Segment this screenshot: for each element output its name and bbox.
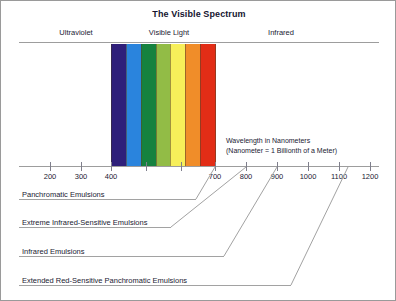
axis-tick-label-900: 900 xyxy=(262,172,292,181)
axis-tick-1000 xyxy=(308,162,309,171)
visible-spectrum-diagram: The Visible Spectrum Ultraviolet Visible… xyxy=(0,0,396,301)
spectrum-band-yellow xyxy=(170,44,185,166)
axis-tick-label-800: 800 xyxy=(231,172,261,181)
axis-tick-1200 xyxy=(370,162,371,171)
spectrum-band-yellow-green xyxy=(156,44,171,166)
axis-tick-label-1000: 1000 xyxy=(293,172,323,181)
axis-tick-label-300: 300 xyxy=(66,172,96,181)
spectrum-color-bands xyxy=(111,44,216,166)
wavelength-caption: Wavelength in Nanometers (Nanometer = 1 … xyxy=(226,136,337,155)
spectrum-band-red xyxy=(200,44,216,166)
axis-tick-label-1100: 1100 xyxy=(324,172,354,181)
region-divider-rule xyxy=(19,42,379,43)
axis-tick-label-700: 700 xyxy=(200,172,230,181)
axis-tick-400 xyxy=(111,162,112,171)
wavelength-axis-line xyxy=(19,166,379,167)
emulsion-label-extreme-infrared-sensitive: Extreme Infrared-Sensitive Emulsions xyxy=(22,218,147,227)
axis-tick-700 xyxy=(215,162,216,171)
emulsion-rule-panchromatic xyxy=(19,199,196,200)
wavelength-caption-line2: (Nanometer = 1 Billionth of a Meter) xyxy=(226,146,337,156)
emulsion-rule-extended-red-sensitive xyxy=(19,285,291,286)
axis-tick-500 xyxy=(146,162,147,171)
page-title: The Visible Spectrum xyxy=(1,9,396,19)
spectrum-band-green xyxy=(141,44,156,166)
axis-tick-200 xyxy=(50,162,51,171)
axis-tick-label-200: 200 xyxy=(35,172,65,181)
leader-line-extended-red-sensitive xyxy=(291,167,348,285)
emulsion-label-extended-red-sensitive: Extended Red-Sensitive Panchromatic Emul… xyxy=(22,276,187,285)
axis-tick-900 xyxy=(277,162,278,171)
axis-tick-800 xyxy=(246,162,247,171)
spectrum-band-violet xyxy=(111,44,126,166)
region-label-infrared: Infrared xyxy=(236,28,326,37)
spectrum-band-blue xyxy=(126,44,141,166)
emulsion-label-infrared: Infrared Emulsions xyxy=(22,247,85,256)
axis-tick-300 xyxy=(81,162,82,171)
axis-tick-600 xyxy=(181,162,182,171)
wavelength-caption-line1: Wavelength in Nanometers xyxy=(226,136,337,146)
region-label-ultraviolet: Ultraviolet xyxy=(31,28,121,37)
emulsion-label-panchromatic: Panchromatic Emulsions xyxy=(22,190,105,199)
region-label-visible-light: Visible Light xyxy=(119,28,219,37)
emulsion-rule-infrared xyxy=(19,256,224,257)
spectrum-band-orange xyxy=(185,44,200,166)
axis-tick-label-1200: 1200 xyxy=(355,172,385,181)
axis-tick-1100 xyxy=(339,162,340,171)
axis-tick-label-400: 400 xyxy=(96,172,126,181)
emulsion-rule-extreme-infrared-sensitive xyxy=(19,227,171,228)
